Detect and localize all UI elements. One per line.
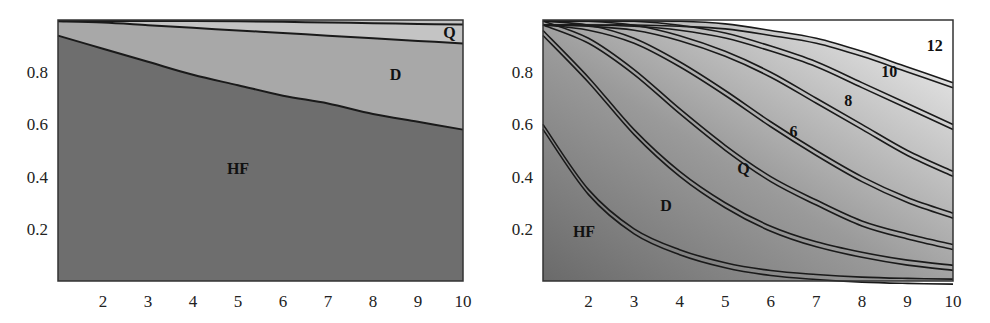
x-tick-label: 5 <box>721 292 730 311</box>
curve-label-6: 6 <box>790 123 798 140</box>
y-tick-label: 0.2 <box>27 220 48 239</box>
x-tick-label: 6 <box>279 292 288 311</box>
x-tick-label: 9 <box>903 292 912 311</box>
x-tick-label: 3 <box>630 292 639 311</box>
left-chart: 23456789100.20.40.60.8HFDQ <box>27 20 472 311</box>
x-tick-label: 4 <box>189 292 198 311</box>
x-tick-label: 10 <box>945 292 962 311</box>
y-tick-label: 0.2 <box>512 220 533 239</box>
x-tick-label: 2 <box>99 292 108 311</box>
region-label-q: Q <box>443 24 455 41</box>
curve-label-q: Q <box>737 160 749 177</box>
y-tick-label: 0.6 <box>27 115 48 134</box>
x-tick-label: 2 <box>584 292 593 311</box>
region-label-d: D <box>390 66 402 83</box>
x-tick-label: 8 <box>858 292 867 311</box>
y-tick-label: 0.4 <box>512 168 534 187</box>
figure: 23456789100.20.40.60.8HFDQ 23456789100.2… <box>0 0 990 323</box>
x-tick-label: 6 <box>767 292 776 311</box>
y-tick-label: 0.4 <box>27 168 49 187</box>
x-tick-label: 10 <box>455 292 472 311</box>
y-tick-label: 0.8 <box>27 63 48 82</box>
y-tick-label: 0.8 <box>512 63 533 82</box>
x-tick-label: 5 <box>234 292 243 311</box>
right-chart: 23456789100.20.40.60.8HFDQ681012 <box>512 20 962 311</box>
y-tick-label: 0.6 <box>512 115 533 134</box>
curve-label-12: 12 <box>927 37 943 54</box>
x-tick-label: 8 <box>369 292 378 311</box>
curve-label-d: D <box>660 197 672 214</box>
x-tick-label: 7 <box>324 292 333 311</box>
x-tick-label: 7 <box>812 292 821 311</box>
x-tick-label: 9 <box>414 292 423 311</box>
curve-label-10: 10 <box>881 63 897 80</box>
curve-label-hf: HF <box>573 223 595 240</box>
x-tick-label: 3 <box>144 292 153 311</box>
x-tick-label: 4 <box>675 292 684 311</box>
region-label-hf: HF <box>227 160 249 177</box>
curve-label-8: 8 <box>844 92 852 109</box>
